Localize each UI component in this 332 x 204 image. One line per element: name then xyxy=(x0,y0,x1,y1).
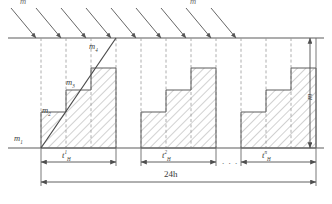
interval-label-t2: t2H xyxy=(162,150,171,162)
staircase-block-1 xyxy=(41,68,116,148)
interval-label-tn: tnH xyxy=(262,150,271,162)
step-label-m3: m3 xyxy=(66,78,75,89)
top-rule-label-right: m xyxy=(190,0,196,6)
ellipsis-between-blocks: . . . xyxy=(222,156,238,166)
incoming-arrows xyxy=(11,8,236,38)
step-label-m1: m1 xyxy=(14,134,23,145)
step-label-m2: m2 xyxy=(42,106,51,117)
top-rule-label-left: m xyxy=(20,0,26,6)
right-dimension-label-m: m xyxy=(305,94,314,100)
step-label-m4: m4 xyxy=(89,42,98,53)
figure-staircase-diagram: m m m4 m3 m2 m1 t1H t2H tnH . . . 24h m xyxy=(0,0,332,204)
staircase-block-n xyxy=(241,68,316,148)
interval-label-t1: t1H xyxy=(62,150,71,162)
total-span-label: 24h xyxy=(164,170,178,179)
staircase-block-2 xyxy=(141,68,216,148)
